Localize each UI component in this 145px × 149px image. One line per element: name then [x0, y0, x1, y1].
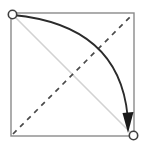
geometric-diagram-svg	[0, 0, 145, 149]
start-node	[8, 10, 16, 18]
end-node	[129, 131, 137, 139]
diagram-canvas	[0, 0, 145, 149]
